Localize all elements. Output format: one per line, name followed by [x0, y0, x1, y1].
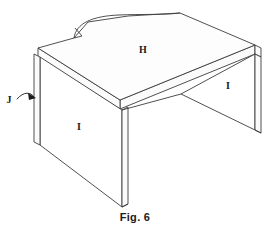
right-side-panel-thickness: [255, 54, 261, 133]
left-side-panel-rear-thickness: [34, 54, 40, 145]
reference-label-h: H: [139, 44, 147, 55]
desk-line-drawing: H I I J: [0, 0, 270, 243]
reference-label-j: J: [7, 94, 12, 105]
figure-6-drawing: H I I J Fig. 6: [0, 0, 270, 243]
reference-label-i-left: I: [77, 121, 81, 132]
left-side-panel-front-thickness: [122, 107, 128, 207]
j-leader-arrow: [17, 93, 36, 100]
reference-label-i-right: I: [226, 80, 230, 91]
figure-caption: Fig. 6: [0, 211, 270, 223]
